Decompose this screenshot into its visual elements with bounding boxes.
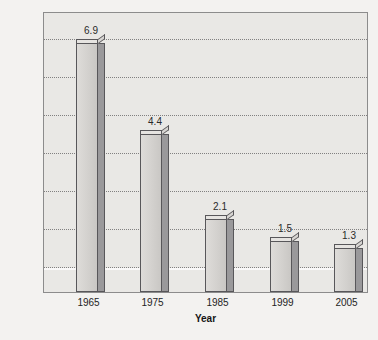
bar [76,39,105,292]
bar-value-label: 2.1 [203,201,237,212]
bar-front-face [334,244,356,292]
bar-top-face [334,244,356,249]
bar-value-label: 1.5 [268,223,302,234]
bar [140,130,169,292]
chart-page: Women's hours of housework for every hou… [0,0,378,340]
bar-side-face [227,219,234,292]
bar-top-face [270,237,292,242]
bar-side-face [356,248,363,292]
bar-side-face [162,134,169,292]
plot-area: 6.94.42.11.51.3 [43,12,368,293]
bar [334,244,363,292]
bar-side-face [292,241,299,292]
bar-value-label: 1.3 [332,230,366,241]
bar-front-face [270,237,292,292]
x-axis-title: Year [43,313,368,324]
bar-top-face [140,130,162,135]
bar-value-label: 4.4 [138,116,172,127]
bar [205,215,234,292]
bar-side-face [98,43,105,292]
x-axis-tick-label: 1965 [59,297,119,308]
x-axis-tick-label: 1975 [123,297,183,308]
bar-front-face [76,39,98,292]
bar-value-label: 6.9 [74,25,108,36]
bar-top-face [205,215,227,220]
bar-front-face [205,215,227,292]
x-axis-tick-label: 1999 [253,297,313,308]
bar [270,237,299,292]
bar-top-face [76,39,98,44]
bar-front-face [140,130,162,292]
x-axis-tick-label: 1985 [188,297,248,308]
x-axis-tick-label: 2005 [317,297,377,308]
